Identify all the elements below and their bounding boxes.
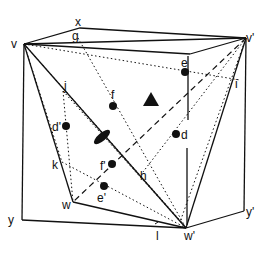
label-v-prime: v'	[246, 31, 254, 45]
label-j: j	[63, 79, 67, 93]
point-f	[109, 102, 117, 110]
label-w-prime: w'	[183, 229, 195, 243]
edge-wprime-yprime	[186, 211, 244, 228]
l-tick	[155, 222, 158, 224]
label-f: f	[111, 88, 115, 102]
edge-w-wprime	[73, 202, 186, 228]
label-g: g	[72, 29, 79, 43]
dotted-vprime-wprime-inner	[180, 38, 246, 222]
point-d-prime	[62, 122, 70, 130]
ellipse-icon	[92, 128, 112, 147]
label-h: h	[140, 169, 147, 183]
label-y: y	[8, 213, 14, 227]
point-d	[172, 130, 180, 138]
point-f-prime	[108, 160, 116, 168]
label-d-prime: d'	[52, 120, 61, 134]
edge-v-y	[22, 44, 24, 220]
edge-y-wprime	[22, 220, 186, 228]
label-w: w	[61, 198, 71, 212]
label-x: x	[75, 15, 81, 29]
label-d: d	[181, 128, 188, 142]
label-l: l	[156, 229, 159, 243]
edge-vprime-yprime	[244, 38, 246, 211]
label-f-prime: f'	[100, 159, 106, 173]
label-k: k	[52, 158, 59, 172]
dotted-j-wprime	[63, 91, 186, 228]
label-i: i	[235, 77, 238, 91]
triangle-icon	[143, 92, 159, 106]
edge-v-g-vprime	[24, 38, 246, 44]
label-y-prime: y'	[246, 205, 254, 219]
dotted-vprime-h	[143, 38, 246, 172]
dotted-g-wprime	[78, 38, 186, 228]
polyhedron-diagram: v v' x g e i j f d' d k f' h e' w y y' l…	[0, 0, 271, 257]
edge-v-front	[24, 44, 190, 54]
label-v: v	[11, 37, 17, 51]
label-e-prime: e'	[97, 191, 106, 205]
point-e-prime	[100, 182, 108, 190]
label-e: e	[181, 56, 188, 70]
